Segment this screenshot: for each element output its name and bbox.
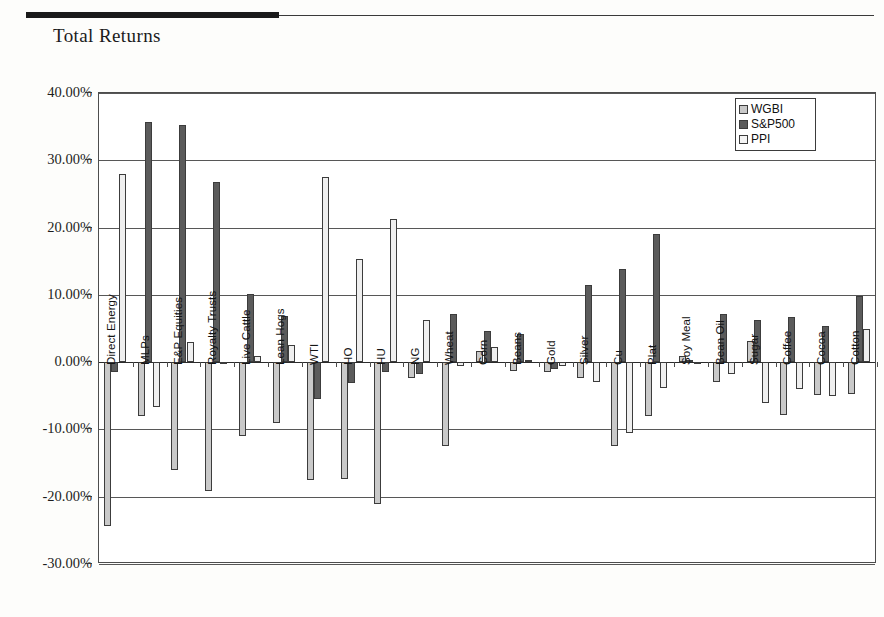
x-tick-mark: [471, 362, 472, 367]
x-axis-category-label: Sugar: [748, 334, 760, 365]
bar: [119, 174, 126, 362]
x-tick-mark: [505, 362, 506, 367]
bar: [356, 259, 363, 363]
y-tick-mark: [85, 361, 92, 362]
bar: [254, 356, 261, 362]
x-tick-mark: [200, 362, 201, 367]
x-axis-category-label: Silver: [578, 336, 590, 365]
bar: [171, 362, 178, 470]
x-axis-category-label: Corn: [477, 340, 489, 365]
bar: [288, 345, 295, 362]
x-tick-mark: [268, 362, 269, 367]
page-title: Total Returns: [53, 25, 161, 47]
x-axis-category-label: Royalty Trusts: [206, 291, 218, 365]
x-axis-category-label: Beans: [511, 332, 523, 365]
x-axis-category-label: Cocoa: [815, 331, 827, 365]
x-tick-mark: [437, 362, 438, 367]
x-axis-category-label: Direct Energy: [105, 294, 117, 365]
bar: [559, 362, 566, 366]
y-axis: 40.00%30.00%20.00%10.00%0.00%-10.00%-20.…: [18, 92, 92, 563]
plot-area: Direct EnergyMLPsE&P EquitiesRoyalty Tru…: [98, 92, 876, 563]
bar: [187, 342, 194, 362]
y-tick-mark: [85, 294, 92, 295]
x-axis-category-label: NG: [409, 348, 421, 365]
legend-item: WGBI: [739, 102, 811, 117]
x-tick-mark: [776, 362, 777, 367]
bar: [220, 362, 227, 364]
bar: [423, 320, 430, 362]
x-axis-category-label: Gold: [545, 340, 557, 365]
bar: [863, 329, 870, 363]
bar: [660, 362, 667, 388]
x-axis-category-label: Bean Oil: [714, 320, 726, 365]
bar: [814, 362, 821, 395]
bar: [341, 362, 348, 478]
x-tick-mark: [167, 362, 168, 367]
gridline: [99, 497, 875, 498]
legend-item: S&P500: [739, 117, 811, 132]
x-tick-mark: [539, 362, 540, 367]
x-tick-mark: [742, 362, 743, 367]
bar: [848, 362, 855, 394]
bar: [645, 362, 652, 416]
x-tick-mark: [302, 362, 303, 367]
bar: [525, 360, 532, 362]
legend-swatch-icon: [739, 135, 748, 144]
legend-label: PPI: [751, 133, 770, 146]
x-axis-category-label: Cotton: [849, 331, 861, 365]
x-tick-mark: [370, 362, 371, 367]
y-tick-mark: [85, 227, 92, 228]
bar: [307, 362, 314, 480]
gridline: [99, 93, 875, 94]
x-tick-mark: [877, 362, 878, 367]
x-axis-category-label: Live Cattle: [240, 310, 252, 365]
x-axis-category-label: Plat: [646, 345, 658, 365]
x-axis-category-label: HU: [375, 348, 387, 365]
gridline: [99, 429, 875, 430]
bar: [314, 362, 321, 399]
x-tick-mark: [573, 362, 574, 367]
y-tick-mark: [85, 496, 92, 497]
legend-label: WGBI: [751, 103, 783, 116]
y-tick-mark: [85, 428, 92, 429]
chart-page: Total Returns 40.00%30.00%20.00%10.00%0.…: [0, 0, 884, 617]
y-tick-mark: [85, 563, 92, 564]
legend-swatch-icon: [739, 105, 748, 114]
x-tick-mark: [640, 362, 641, 367]
x-axis-category-label: Cu: [612, 350, 624, 365]
x-tick-mark: [336, 362, 337, 367]
gridline: [99, 564, 875, 565]
legend-label: S&P500: [751, 118, 795, 131]
header-rule-thin: [279, 15, 874, 16]
bar: [780, 362, 787, 414]
bar: [491, 347, 498, 362]
y-tick-mark: [85, 159, 92, 160]
x-axis-category-label: WTI: [308, 344, 320, 365]
x-tick-mark: [403, 362, 404, 367]
bar: [322, 177, 329, 362]
bar: [619, 269, 626, 362]
bar: [713, 362, 720, 382]
legend-swatch-icon: [739, 120, 748, 129]
gridline: [99, 160, 875, 161]
bar: [348, 362, 355, 383]
bar: [390, 219, 397, 362]
x-tick-mark: [674, 362, 675, 367]
header-rule-thick: [26, 12, 279, 18]
x-tick-mark: [708, 362, 709, 367]
bar: [593, 362, 600, 382]
bar: [205, 362, 212, 491]
x-tick-mark: [133, 362, 134, 367]
x-tick-mark: [606, 362, 607, 367]
x-axis-category-label: E&P Equities: [172, 297, 184, 365]
bar: [626, 362, 633, 433]
bar: [796, 362, 803, 389]
bar: [273, 362, 280, 423]
bar: [611, 362, 618, 445]
bar: [104, 362, 111, 526]
x-tick-mark: [234, 362, 235, 367]
bar: [653, 234, 660, 362]
bar: [153, 362, 160, 407]
x-axis-category-label: Lean Hogs: [274, 309, 286, 366]
legend-item: PPI: [739, 132, 811, 147]
